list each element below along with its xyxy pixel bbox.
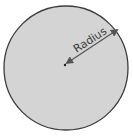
- circle-diagram: Radius: [0, 0, 133, 138]
- diagram-canvas: Radius: [0, 0, 133, 138]
- center-point: [64, 64, 66, 66]
- circle-shape: [4, 6, 128, 130]
